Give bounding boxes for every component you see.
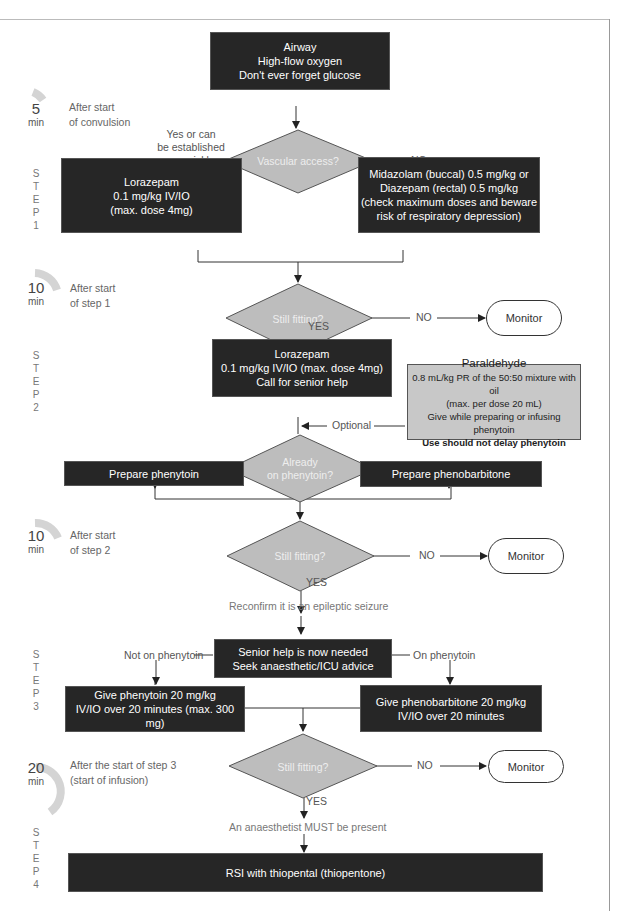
not-on-phenytoin-label: Not on phenytoin bbox=[124, 649, 203, 662]
give-phenytoin-box: Give phenytoin 20 mg/kg IV/IO over 20 mi… bbox=[65, 686, 245, 732]
timeline-desc: After start of step 2 bbox=[70, 528, 116, 558]
step-1-label: S T E P 1 bbox=[30, 167, 42, 232]
reconfirm-seizure-text: Reconfirm it is an epileptic seizure bbox=[229, 600, 388, 613]
timeline-desc: After start of step 1 bbox=[70, 281, 116, 311]
timeline-minutes: 10 bbox=[21, 280, 51, 296]
decision-still-fitting-1-text: Still fitting? bbox=[250, 311, 346, 327]
box-line: Give phenytoin 20 mg/kg bbox=[94, 688, 216, 702]
box-line: Give while preparing or infusing phenyto… bbox=[408, 410, 580, 436]
timeline-desc: After start of convulsion bbox=[69, 100, 130, 130]
box-line: risk of respiratory depression) bbox=[377, 209, 522, 223]
decision-still-fitting-2-text: Still fitting? bbox=[252, 548, 348, 564]
step-letter: S bbox=[30, 167, 42, 180]
yes-label: YES bbox=[308, 320, 329, 333]
step-letter: 2 bbox=[30, 401, 42, 414]
box-line: Seek anaesthetic/ICU advice bbox=[232, 659, 373, 673]
box-line: Midazolam (buccal) 0.5 mg/kg or bbox=[369, 167, 529, 181]
step-letter: P bbox=[30, 206, 42, 219]
box-line: 0.1 mg/kg IV/IO bbox=[113, 189, 189, 203]
paraldehyde-warning: Use should not delay phenytoin bbox=[422, 437, 566, 448]
step-letter: E bbox=[30, 375, 42, 388]
step-letter: T bbox=[30, 180, 42, 193]
box-line: Diazepam (rectal) 0.5 mg/kg bbox=[380, 181, 518, 195]
timeline-minutes: 5 bbox=[21, 101, 51, 117]
step-letter: E bbox=[30, 674, 42, 687]
timeline-desc-line: After the start of step 3 bbox=[70, 758, 176, 773]
step-letter: T bbox=[30, 661, 42, 674]
step-letter: 1 bbox=[30, 219, 42, 232]
box-line: Lorazepam bbox=[124, 175, 179, 189]
step-letter: P bbox=[30, 865, 42, 878]
decision-text: Still fitting? bbox=[275, 550, 326, 563]
prepare-phenytoin-box: Prepare phenytoin bbox=[64, 461, 244, 486]
step-2-label: S T E P 2 bbox=[30, 349, 42, 414]
timeline-10min-step1: 10 min bbox=[21, 280, 51, 308]
box-line: Prepare phenytoin bbox=[109, 467, 199, 481]
box-line: High-flow oxygen bbox=[258, 54, 342, 68]
rsi-thiopental-box: RSI with thiopental (thiopentone) bbox=[68, 853, 543, 892]
timeline-desc-line: (start of infusion) bbox=[70, 773, 176, 788]
step-letter: S bbox=[30, 648, 42, 661]
decision-vascular-access-text: Vascular access? bbox=[230, 153, 366, 169]
step-letter: E bbox=[30, 193, 42, 206]
step-letter: P bbox=[30, 687, 42, 700]
box-line: Prepare phenobarbitone bbox=[392, 467, 511, 481]
lorazepam-step1-box: Lorazepam 0.1 mg/kg IV/IO (max. dose 4mg… bbox=[61, 158, 242, 233]
box-line: Call for senior help bbox=[256, 375, 348, 389]
timeline-5min: 5 min bbox=[21, 101, 51, 129]
midazolam-diazepam-box: Midazolam (buccal) 0.5 mg/kg or Diazepam… bbox=[358, 157, 540, 233]
step-letter: E bbox=[30, 852, 42, 865]
paraldehyde-title: Paraldehyde bbox=[462, 356, 527, 371]
timeline-desc-line: of convulsion bbox=[69, 115, 130, 130]
optional-label: Optional bbox=[332, 419, 371, 432]
decision-text: Vascular access? bbox=[257, 155, 339, 168]
box-line: (max. per dose 20 mL) bbox=[446, 397, 542, 410]
decision-text: on phenytoin? bbox=[267, 469, 333, 482]
box-line: (max. dose 4mg) bbox=[110, 203, 193, 217]
timeline-desc-line: After start bbox=[70, 528, 116, 543]
box-line: IV/IO over 20 minutes bbox=[398, 709, 504, 723]
no-label: NO bbox=[419, 549, 435, 562]
no-label: NO bbox=[416, 311, 432, 324]
timeline-20min: 20 min bbox=[21, 760, 51, 788]
prepare-phenobarbitone-box: Prepare phenobarbitone bbox=[360, 461, 542, 487]
airway-oxygen-glucose-box: Airway High-flow oxygen Don't ever forge… bbox=[210, 32, 390, 90]
box-line: RSI with thiopental (thiopentone) bbox=[226, 866, 386, 880]
timeline-unit: min bbox=[21, 117, 51, 129]
timeline-minutes: 20 bbox=[21, 760, 51, 776]
timeline-desc-line: After start bbox=[70, 281, 116, 296]
decision-text: Already bbox=[282, 456, 318, 469]
label-line: be established bbox=[151, 141, 231, 154]
yes-label: YES bbox=[306, 795, 327, 808]
decision-already-on-phenytoin-text: Already on phenytoin? bbox=[252, 455, 348, 483]
monitor-label: Monitor bbox=[508, 761, 545, 773]
box-line: Lorazepam bbox=[274, 347, 329, 361]
no-label: NO bbox=[417, 759, 433, 772]
step-3-label: S T E P 3 bbox=[30, 648, 42, 713]
lorazepam-step2-box: Lorazepam 0.1 mg/kg IV/IO (max. dose 4mg… bbox=[212, 339, 392, 397]
box-line: Give phenobarbitone 20 mg/kg bbox=[376, 695, 526, 709]
box-line: 0.1 mg/kg IV/IO (max. dose 4mg) bbox=[221, 361, 383, 375]
give-phenobarbitone-box: Give phenobarbitone 20 mg/kg IV/IO over … bbox=[360, 685, 542, 732]
step-letter: S bbox=[30, 349, 42, 362]
box-line: Senior help is now needed bbox=[238, 645, 368, 659]
timeline-desc-line: of step 1 bbox=[70, 296, 116, 311]
step-letter: 4 bbox=[30, 878, 42, 891]
box-line: (check maximum doses and beware bbox=[361, 195, 537, 209]
decision-still-fitting-3-text: Still fitting? bbox=[255, 759, 351, 775]
timeline-unit: min bbox=[21, 544, 51, 556]
step-letter: T bbox=[30, 839, 42, 852]
box-line: 0.8 mL/kg PR of the 50:50 mixture with o… bbox=[408, 371, 580, 397]
paraldehyde-box: Paraldehyde 0.8 mL/kg PR of the 50:50 mi… bbox=[407, 364, 581, 440]
step-letter: P bbox=[30, 388, 42, 401]
timeline-minutes: 10 bbox=[21, 528, 51, 544]
timeline-unit: min bbox=[21, 296, 51, 308]
monitor-label: Monitor bbox=[506, 312, 543, 324]
timeline-desc-line: of step 2 bbox=[70, 543, 116, 558]
timeline-10min-step2: 10 min bbox=[21, 528, 51, 556]
on-phenytoin-label: On phenytoin bbox=[413, 649, 475, 662]
step-letter: S bbox=[30, 826, 42, 839]
step-letter: 3 bbox=[30, 700, 42, 713]
step-letter: T bbox=[30, 362, 42, 375]
anaesthetist-must-be-present-text: An anaesthetist MUST be present bbox=[229, 821, 386, 834]
